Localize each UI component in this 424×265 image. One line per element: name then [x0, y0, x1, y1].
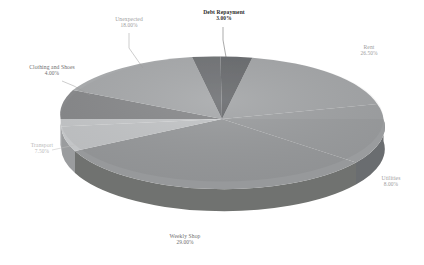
- pie-label-debt-repayment: Debt Repayment 3.00%: [188, 9, 260, 21]
- pie-label-clothing-and-shoes: Clothing and Shoes 4.00%: [12, 64, 92, 76]
- pie-label-unexpected-percent: 18.00%: [98, 22, 160, 28]
- leader-line-unexpected: [129, 33, 143, 68]
- pie-label-rent: Rent 26.50%: [346, 44, 392, 56]
- pie-chart-figure: Debt Repayment 3.00% Unexpected 18.00% C…: [0, 0, 424, 265]
- pie-chart-canvas: [0, 0, 424, 265]
- pie-label-rent-percent: 26.50%: [346, 50, 392, 56]
- pie-label-debt-repayment-percent: 3.00%: [188, 15, 260, 21]
- pie-label-utilities: Utilities 8.00%: [366, 175, 416, 187]
- leader-line-debt-repayment: [223, 27, 226, 57]
- pie-label-transport: Transport 7.50%: [14, 142, 70, 154]
- pie-label-clothing-and-shoes-percent: 4.00%: [12, 70, 92, 76]
- pie-label-weekly-shop-percent: 29.00%: [148, 239, 222, 245]
- pie-label-unexpected: Unexpected 18.00%: [98, 16, 160, 28]
- pie-label-utilities-percent: 8.00%: [366, 181, 416, 187]
- pie-label-transport-percent: 7.50%: [14, 148, 70, 154]
- pie-label-weekly-shop: Weekly Shop 29.00%: [148, 233, 222, 245]
- pie-top-sheen: [61, 57, 384, 182]
